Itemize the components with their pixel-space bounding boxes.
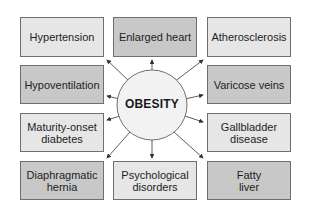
box-gallbladder-disease: Gallbladder disease bbox=[207, 113, 291, 152]
fatty-liver-label: Fatty liver bbox=[234, 169, 264, 193]
arrow-atherosclerosis bbox=[174, 60, 203, 82]
hypertension-label: Hypertension bbox=[30, 31, 95, 43]
maturity-onset-diabetes-label: Maturity-onset diabetes bbox=[27, 121, 97, 145]
arrow-maturity-onset-diabetes bbox=[107, 116, 120, 120]
box-fatty-liver: Fatty liver bbox=[207, 161, 291, 200]
atherosclerosis-label: Atherosclerosis bbox=[211, 31, 286, 43]
box-atherosclerosis: Atherosclerosis bbox=[207, 17, 291, 57]
gallbladder-disease-label: Gallbladder disease bbox=[217, 121, 281, 145]
arrow-diaphragmatic-hernia bbox=[107, 132, 130, 158]
arrow-fatty-liver bbox=[174, 132, 203, 158]
box-varicose-veins: Varicose veins bbox=[207, 65, 291, 104]
enlarged-heart-label: Enlarged heart bbox=[119, 31, 191, 43]
arrow-gallbladder-disease bbox=[185, 116, 203, 122]
hypoventilation-label: Hypoventilation bbox=[24, 79, 99, 91]
obesity-label: OBESITY bbox=[117, 97, 187, 111]
box-psychological-disorders: Psychological disorders bbox=[113, 161, 197, 200]
box-maturity-onset-diabetes: Maturity-onset diabetes bbox=[20, 113, 104, 152]
diaphragmatic-hernia-label: Diaphragmatic hernia bbox=[26, 169, 98, 193]
box-hypertension: Hypertension bbox=[20, 17, 104, 57]
box-diaphragmatic-hernia: Diaphragmatic hernia bbox=[20, 161, 104, 200]
psychological-disorders-label: Psychological disorders bbox=[120, 169, 190, 193]
varicose-veins-label: Varicose veins bbox=[214, 79, 285, 91]
arrow-varicose-veins bbox=[185, 95, 203, 99]
box-enlarged-heart: Enlarged heart bbox=[113, 17, 197, 57]
box-hypoventilation: Hypoventilation bbox=[20, 65, 104, 104]
arrow-hypertension bbox=[107, 60, 130, 82]
